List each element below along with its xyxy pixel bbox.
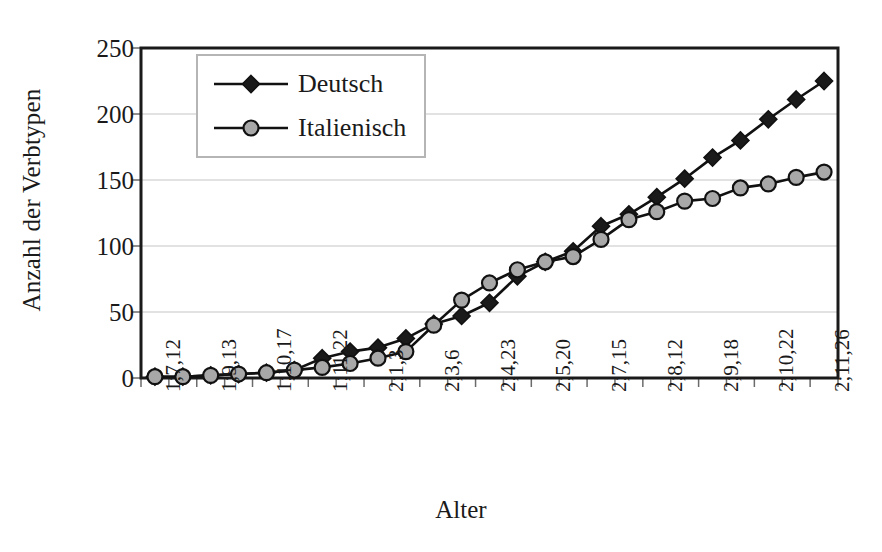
legend-label: Italienisch (298, 112, 406, 143)
x-tick-label: 2;3,6 (442, 349, 463, 392)
x-tick-label: 2;8,12 (665, 339, 686, 392)
y-tick-label: 200 (62, 102, 134, 127)
y-tick-label: 50 (62, 300, 134, 325)
x-tick-label: 2;9,18 (721, 339, 742, 392)
y-tick-label: 150 (62, 168, 134, 193)
x-tick-label: 2;5,20 (553, 339, 574, 392)
x-tick-label: 2;10,22 (776, 328, 797, 392)
x-tick-label: 1;7,12 (163, 339, 184, 392)
y-tick-label: 0 (62, 366, 134, 391)
x-tick-label: 1;11,22 (330, 329, 351, 392)
x-axis-title-text: Alter (435, 496, 486, 523)
y-axis-tick-labels: 250 200 150 100 50 0 (56, 0, 134, 552)
chart-figure: Anzahl der Verbtypen 250 200 150 100 50 … (0, 0, 882, 552)
x-tick-label: 2;1,3 (386, 349, 407, 392)
x-axis-title: Alter (0, 496, 882, 524)
x-tick-label: 1;9,13 (219, 339, 240, 392)
y-tick-label: 100 (62, 234, 134, 259)
legend-label: Deutsch (298, 68, 383, 99)
y-axis-title-text: Anzahl der Verbtypen (18, 89, 46, 312)
y-axis-title: Anzahl der Verbtypen (8, 0, 56, 400)
x-tick-label: 2;11,26 (832, 329, 853, 392)
x-tick-label: 2;7,15 (609, 339, 630, 392)
x-tick-label: 2;4,23 (498, 339, 519, 392)
y-tick-label: 250 (62, 36, 134, 61)
x-tick-label: 1;10,17 (274, 328, 295, 392)
